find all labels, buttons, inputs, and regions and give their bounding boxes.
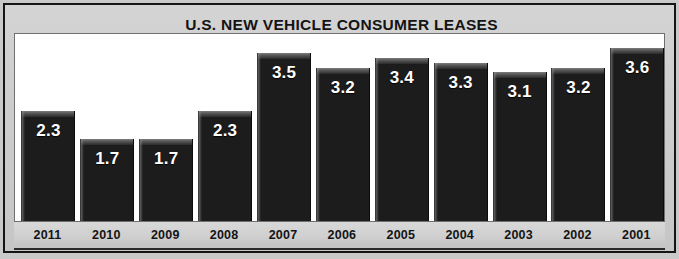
x-axis-tick-label: 2008 [195,228,254,242]
bar[interactable]: 3.5 [257,53,311,221]
bar-value-label: 3.3 [435,73,487,93]
bar-slot: 3.3 [431,34,490,221]
x-axis-tick-label: 2003 [489,228,548,242]
bars-container: 2.31.71.72.33.53.23.43.33.13.23.6 [15,34,664,221]
bar-value-label: 3.5 [258,63,310,83]
x-axis-tick-label: 2002 [548,228,607,242]
bar[interactable]: 3.1 [493,72,547,221]
bar[interactable]: 2.3 [198,111,252,221]
bar-slot: 2.3 [196,34,255,221]
x-axis-tick-label: 2001 [607,228,666,242]
bar-value-label: 1.7 [140,149,192,169]
bar[interactable]: 3.6 [610,48,664,221]
bar[interactable]: 3.2 [551,68,605,221]
bar-value-label: 2.3 [199,121,251,141]
bar-value-label: 3.6 [611,58,663,78]
bar-slot: 2.3 [19,34,78,221]
bar-slot: 3.5 [255,34,314,221]
chart-title: U.S. NEW VEHICLE CONSUMER LEASES [5,16,678,34]
x-axis-tick-label: 2007 [254,228,313,242]
bar[interactable]: 3.4 [375,58,429,221]
bar-value-label: 1.7 [81,149,133,169]
bar-value-label: 3.1 [494,82,546,102]
x-axis-tick-label: 2011 [18,228,77,242]
bar[interactable]: 1.7 [80,139,134,221]
bar-slot: 3.1 [490,34,549,221]
bar-slot: 1.7 [78,34,137,221]
x-axis-tick-label: 2009 [136,228,195,242]
x-axis-tick-label: 2006 [312,228,371,242]
bar-value-label: 3.2 [317,78,369,98]
bar-slot: 3.2 [313,34,372,221]
chart-panel: U.S. NEW VEHICLE CONSUMER LEASES 2.31.71… [0,0,679,259]
bar-slot: 3.6 [608,34,667,221]
plot-area: 2.31.71.72.33.53.23.43.33.13.23.6 [14,33,665,222]
x-axis-labels: 2011201020092008200720062005200420032002… [14,222,665,247]
bar-slot: 1.7 [137,34,196,221]
bar-slot: 3.2 [549,34,608,221]
bar[interactable]: 2.3 [21,111,75,221]
bar[interactable]: 3.3 [434,63,488,221]
chart-frame: U.S. NEW VEHICLE CONSUMER LEASES 2.31.71… [3,3,676,253]
x-axis-tick-label: 2005 [371,228,430,242]
bar-slot: 3.4 [372,34,431,221]
bar-value-label: 3.4 [376,68,428,88]
x-axis-tick-label: 2004 [430,228,489,242]
bar-value-label: 2.3 [22,121,74,141]
x-axis-tick-label: 2010 [77,228,136,242]
axis-baseline-rule [14,248,665,250]
bar[interactable]: 1.7 [139,139,193,221]
bar[interactable]: 3.2 [316,68,370,221]
bar-value-label: 3.2 [552,78,604,98]
